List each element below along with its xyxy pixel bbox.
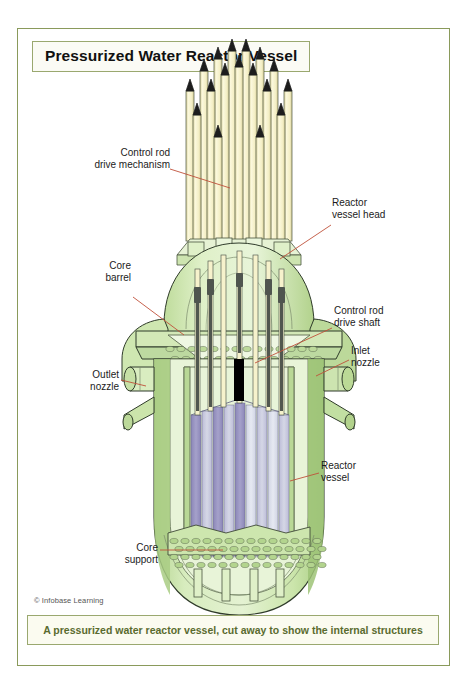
callout-label-line-2: vessel head bbox=[332, 209, 385, 221]
callout-label-line-2: nozzle bbox=[18, 381, 119, 393]
figure-caption-bar: A pressurized water reactor vessel, cut … bbox=[27, 615, 439, 645]
callout-label-line-1: Control rod bbox=[18, 147, 170, 159]
callout-control-rod-drive-shaft: Control rod drive shaft bbox=[334, 305, 383, 329]
callout-core-support: Core support bbox=[18, 542, 158, 566]
callout-label-line-2: nozzle bbox=[351, 357, 380, 369]
callout-label-line-1: Core bbox=[18, 260, 131, 272]
callout-label-line-1: Core bbox=[18, 542, 158, 554]
callout-label-line-2: drive shaft bbox=[334, 317, 383, 329]
callout-label-line-2: vessel bbox=[321, 472, 356, 484]
reactor-vessel-illustration bbox=[18, 29, 451, 667]
callout-label-line-2: drive mechanism bbox=[18, 159, 170, 171]
callout-label-line-2: support bbox=[18, 554, 158, 566]
callout-label-line-1: Outlet bbox=[18, 369, 119, 381]
credit-line: © Infobase Learning bbox=[34, 596, 104, 605]
outlet-nozzle bbox=[123, 367, 154, 430]
figure-frame: Pressurized Water Reactor Vessel bbox=[17, 28, 450, 666]
figure-caption-text: A pressurized water reactor vessel, cut … bbox=[43, 624, 423, 636]
callout-label-line-1: Reactor bbox=[321, 460, 356, 472]
callout-reactor-vessel: Reactor vessel bbox=[321, 460, 356, 484]
callout-label-line-2: barrel bbox=[18, 272, 131, 284]
control-rod-drive-mechanism-group bbox=[186, 39, 292, 243]
callout-reactor-vessel-head: Reactor vessel head bbox=[332, 197, 385, 221]
callout-label-line-1: Inlet bbox=[351, 345, 380, 357]
callout-core-barrel: Core barrel bbox=[18, 260, 131, 284]
callout-outlet-nozzle: Outlet nozzle bbox=[18, 369, 119, 393]
callout-label-line-1: Control rod bbox=[334, 305, 383, 317]
control-rod-black-marker bbox=[234, 359, 244, 401]
inlet-nozzle bbox=[324, 367, 355, 430]
callout-inlet-nozzle: Inlet nozzle bbox=[351, 345, 380, 369]
callout-label-line-1: Reactor bbox=[332, 197, 385, 209]
callout-control-rod-drive-mechanism: Control rod drive mechanism bbox=[18, 147, 170, 171]
